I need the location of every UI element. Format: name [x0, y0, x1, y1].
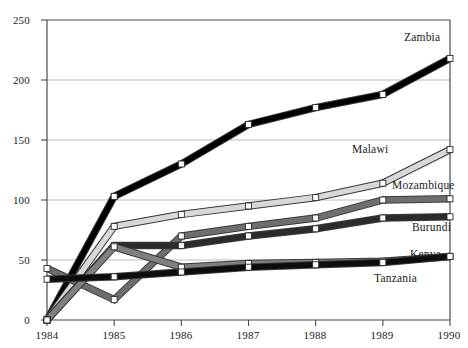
marker-burundi-1989: [380, 215, 386, 221]
y-tick-100: 100: [0, 194, 30, 206]
x-tick-1990: 1990: [426, 329, 468, 341]
marker-malawi-1990: [447, 147, 453, 153]
marker-malawi-1985: [111, 223, 117, 229]
series-label-tanzania: Tanzania: [374, 272, 417, 284]
marker-burundi-1988: [313, 226, 319, 232]
x-tick-1985: 1985: [91, 329, 137, 341]
marker-mozambique-1989: [380, 197, 386, 203]
marker-malawi-1987: [246, 203, 252, 209]
marker-zambia-1988: [313, 105, 319, 111]
line-chart: 250 200 150 100 50 0 1984 1985 1986 1987…: [0, 0, 468, 348]
series-label-kenya: Kenya: [410, 248, 441, 260]
marker-kenya-1984: [44, 317, 50, 323]
x-tick-1987: 1987: [225, 329, 271, 341]
marker-tanzania-1989: [380, 259, 386, 265]
marker-malawi-1986: [178, 211, 184, 217]
marker-zambia-1987: [246, 121, 252, 127]
y-tick-50: 50: [0, 254, 30, 266]
series-label-zambia: Zambia: [404, 31, 440, 43]
y-tick-200: 200: [0, 74, 30, 86]
marker-tanzania-1990: [447, 253, 453, 259]
marker-kenya-1985: [111, 244, 117, 250]
marker-tanzania-1988: [313, 262, 319, 268]
marker-tanzania-1987: [246, 264, 252, 270]
marker-mozambique-1990: [447, 196, 453, 202]
marker-zambia-1985: [111, 193, 117, 199]
series-label-mozambique: Mozambique: [392, 179, 455, 191]
x-tick-1989: 1989: [359, 329, 405, 341]
y-tick-0: 0: [0, 314, 30, 326]
marker-mozambique-1988: [313, 215, 319, 221]
marker-tanzania-1984: [44, 276, 50, 282]
marker-malawi-1988: [313, 195, 319, 201]
x-tick-1986: 1986: [158, 329, 204, 341]
marker-zambia-1986: [178, 161, 184, 167]
x-tick-1984: 1984: [24, 329, 70, 341]
marker-burundi-1990: [447, 214, 453, 220]
plot-area: [0, 0, 468, 348]
marker-mozambique-1985: [111, 297, 117, 303]
marker-mozambique-1987: [246, 223, 252, 229]
marker-tanzania-1985: [111, 274, 117, 280]
x-tick-1988: 1988: [292, 329, 338, 341]
marker-mozambique-1986: [178, 233, 184, 239]
series-label-malawi: Malawi: [352, 143, 388, 155]
marker-tanzania-1986: [178, 269, 184, 275]
marker-burundi-1986: [178, 243, 184, 249]
marker-burundi-1987: [246, 233, 252, 239]
y-tick-250: 250: [0, 14, 30, 26]
y-tick-150: 150: [0, 134, 30, 146]
series-label-burundi: Burundi: [412, 221, 451, 233]
marker-malawi-1989: [380, 180, 386, 186]
marker-mozambique-1984: [44, 265, 50, 271]
marker-zambia-1990: [447, 55, 453, 61]
marker-zambia-1989: [380, 91, 386, 97]
